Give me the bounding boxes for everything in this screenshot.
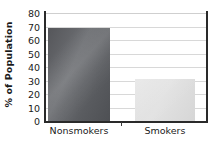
y-tick-label-30: 30 bbox=[28, 75, 40, 86]
bar-smokers bbox=[135, 79, 195, 121]
y-tick-label-0: 0 bbox=[34, 116, 40, 127]
category-label-nonsmokers: Nonsmokers bbox=[50, 125, 109, 136]
x-axis-line bbox=[44, 121, 208, 123]
y-tick-label-60: 60 bbox=[28, 35, 40, 46]
y-axis-line bbox=[44, 11, 46, 123]
y-axis-tick-labels: 01020304050607080 bbox=[16, 0, 43, 144]
y-tick-label-40: 40 bbox=[28, 62, 40, 73]
right-axis-line bbox=[206, 11, 208, 123]
y-tick-label-50: 50 bbox=[28, 48, 40, 59]
x-axis-category-labels: NonsmokersSmokers bbox=[45, 125, 207, 143]
y-axis-title: % of Population bbox=[0, 0, 16, 128]
y-tick-label-70: 70 bbox=[28, 21, 40, 32]
y-axis-title-text: % of Population bbox=[3, 21, 14, 107]
gridline-80 bbox=[45, 13, 207, 14]
y-tick-label-20: 20 bbox=[28, 89, 40, 100]
y-tick-label-10: 10 bbox=[28, 102, 40, 113]
y-tick-label-80: 80 bbox=[28, 8, 40, 19]
bar-chart: % of Population 01020304050607080 Nonsmo… bbox=[0, 0, 222, 144]
bar-nonsmokers bbox=[48, 28, 110, 121]
plot-area bbox=[45, 13, 207, 121]
category-label-smokers: Smokers bbox=[145, 125, 186, 136]
